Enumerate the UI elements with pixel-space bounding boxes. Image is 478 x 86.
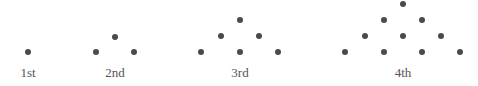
dot-figure-3	[256, 33, 262, 39]
figure-label-4th: 4th	[395, 65, 412, 81]
figure-label-2nd: 2nd	[105, 65, 125, 81]
dot-figure-4	[400, 33, 406, 39]
figure-label-1st: 1st	[20, 65, 35, 81]
dot-figure-4	[362, 33, 368, 39]
dot-figure-4	[400, 1, 406, 7]
dot-figure-4	[438, 33, 444, 39]
dot-figure-4	[419, 49, 425, 55]
dot-figure-4	[381, 17, 387, 23]
dot-figure-4	[342, 49, 348, 55]
dot-figure-3	[198, 49, 204, 55]
dot-figure-2	[93, 49, 99, 55]
dot-figure-4	[419, 17, 425, 23]
dot-figure-3	[237, 17, 243, 23]
dot-figure-3	[275, 49, 281, 55]
figure-label-3rd: 3rd	[231, 65, 248, 81]
dot-figure-3	[237, 49, 243, 55]
dot-figure-4	[457, 49, 463, 55]
dot-figure-2	[112, 34, 118, 40]
dot-figure-3	[218, 33, 224, 39]
dot-figure-2	[131, 49, 137, 55]
dot-figure-1	[25, 49, 31, 55]
dot-figure-4	[381, 49, 387, 55]
